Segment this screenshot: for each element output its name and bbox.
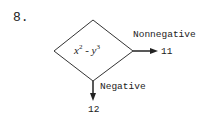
flowchart-lines	[0, 0, 207, 119]
branch-label-negative: Negative	[100, 81, 146, 92]
branch-target-11: 11	[161, 46, 172, 57]
branch-target-12: 12	[88, 104, 99, 115]
expr-op: -	[82, 44, 91, 56]
branch-label-nonnegative: Nonnegative	[133, 29, 196, 40]
expr-exp2: 3	[96, 43, 100, 51]
decision-expression: x2 - y3	[74, 43, 100, 56]
negative-arrowhead-icon	[90, 93, 96, 101]
nonnegative-arrowhead-icon	[150, 48, 158, 54]
